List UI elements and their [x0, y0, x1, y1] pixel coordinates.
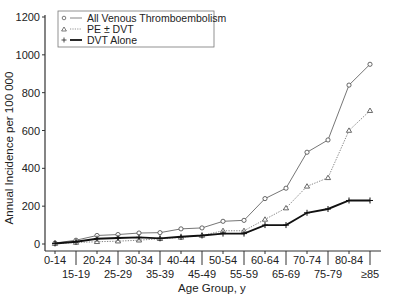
plus-marker-icon — [136, 234, 142, 240]
x-tick-label: 45-49 — [188, 268, 216, 280]
plus-marker-icon — [346, 197, 352, 203]
circle-marker-icon — [242, 218, 246, 222]
x-tick-label: 15-19 — [62, 268, 90, 280]
circle-marker-icon — [158, 231, 162, 235]
series-plus — [52, 197, 373, 246]
x-tick-label: 60-64 — [251, 254, 279, 266]
circle-marker-icon — [62, 16, 66, 20]
circle-marker-icon — [284, 186, 288, 190]
x-tick-label: 35-39 — [146, 268, 174, 280]
x-tick-label: ≥85 — [361, 268, 379, 280]
y-axis-label: Annual Incidence per 100 000 — [3, 72, 15, 225]
x-tick-label: 75-79 — [314, 268, 342, 280]
y-tick-label: 400 — [22, 162, 40, 174]
triangle-marker-icon — [304, 184, 309, 188]
y-tick-label: 1200 — [16, 11, 40, 23]
plus-marker-icon — [367, 197, 373, 203]
legend: All Venous Thromboembolism PE ± DVT DVT … — [58, 11, 227, 47]
y-axis: 020040060080010001200 — [16, 11, 45, 251]
x-tick-label: 70-74 — [293, 254, 321, 266]
triangle-marker-icon — [262, 217, 267, 221]
plus-marker-icon — [262, 222, 268, 228]
legend-label: DVT Alone — [87, 34, 137, 46]
circle-marker-icon — [305, 150, 309, 154]
x-axis: 0-1415-1920-2425-2930-3435-3940-4445-495… — [44, 251, 381, 280]
x-tick-label: 55-59 — [230, 268, 258, 280]
circle-marker-icon — [326, 138, 330, 142]
triangle-marker-icon — [367, 108, 372, 112]
plus-marker-icon — [325, 206, 331, 212]
circle-marker-icon — [368, 62, 372, 66]
triangle-marker-icon — [325, 175, 330, 179]
x-tick-label: 25-29 — [104, 268, 132, 280]
y-tick-label: 1000 — [16, 49, 40, 61]
circle-marker-icon — [200, 226, 204, 230]
x-tick-label: 65-69 — [272, 268, 300, 280]
circle-marker-icon — [221, 219, 225, 223]
y-tick-label: 800 — [22, 87, 40, 99]
x-tick-label: 50-54 — [209, 254, 237, 266]
series-circle — [53, 62, 372, 245]
x-tick-label: 30-34 — [125, 254, 153, 266]
y-tick-label: 200 — [22, 200, 40, 212]
series-line — [55, 111, 370, 244]
incidence-chart: 020040060080010001200 0-1415-1920-2425-2… — [0, 0, 394, 306]
circle-marker-icon — [347, 83, 351, 87]
x-tick-label: 40-44 — [167, 254, 195, 266]
x-tick-label: 0-14 — [44, 254, 66, 266]
x-axis-label: Age Group, y — [178, 282, 246, 294]
y-tick-label: 0 — [34, 238, 40, 250]
series-line — [55, 200, 370, 243]
circle-marker-icon — [263, 197, 267, 201]
circle-marker-icon — [179, 227, 183, 231]
triangle-marker-icon — [346, 128, 351, 132]
series-layer — [52, 62, 373, 246]
y-tick-label: 600 — [22, 125, 40, 137]
x-tick-label: 80-84 — [335, 254, 363, 266]
series-line — [55, 64, 370, 243]
x-tick-label: 20-24 — [83, 254, 111, 266]
